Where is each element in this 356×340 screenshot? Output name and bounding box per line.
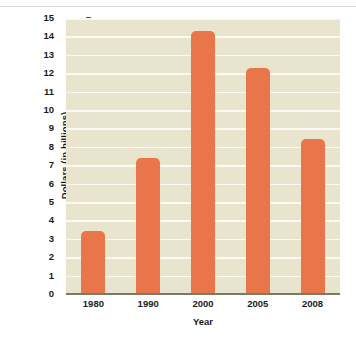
x-tick-label: 1980	[83, 298, 104, 309]
y-tick-label: 7	[30, 160, 54, 170]
bar	[191, 31, 215, 294]
gridline	[66, 18, 340, 20]
y-tick-label: 8	[30, 142, 54, 152]
x-axis-tick-labels: 19801990200020052008	[66, 298, 340, 314]
y-tick-label: 2	[30, 252, 54, 262]
y-tick-label: 1	[30, 271, 54, 281]
top-divider	[0, 6, 356, 7]
y-tick-label: 15	[30, 13, 54, 23]
y-tick-label: 3	[30, 234, 54, 244]
y-tick-label: 13	[30, 50, 54, 60]
y-tick-label: 10	[30, 105, 54, 115]
y-tick-label: 0	[30, 289, 54, 299]
bar	[301, 139, 325, 294]
y-tick-label: 6	[30, 179, 54, 189]
y-tick-label: 14	[30, 31, 54, 41]
bar	[136, 158, 160, 294]
x-tick-label: 2005	[247, 298, 268, 309]
y-tick-label: 9	[30, 123, 54, 133]
y-tick-label: 12	[30, 68, 54, 78]
x-tick-label: 2000	[192, 298, 213, 309]
x-axis-title: Year	[66, 316, 340, 327]
y-tick-label: 5	[30, 197, 54, 207]
bar	[246, 68, 270, 294]
x-tick-label: 1990	[138, 298, 159, 309]
y-axis-tick-labels: 0123456789101112131415	[30, 18, 54, 294]
plot-area	[66, 18, 340, 294]
bar-chart-figure: Dollars (in billions) 012345678910111213…	[0, 0, 356, 340]
y-tick-label: 11	[30, 87, 54, 97]
x-tick-label: 2008	[302, 298, 323, 309]
y-tick-label: 4	[30, 215, 54, 225]
bar	[81, 231, 105, 294]
x-axis-line	[66, 293, 340, 295]
